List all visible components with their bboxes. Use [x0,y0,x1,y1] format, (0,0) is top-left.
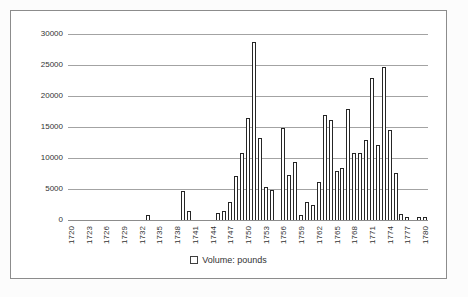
bar [216,213,220,220]
bar [370,78,374,220]
gridline [68,96,428,97]
bar [388,130,392,220]
bar [222,211,226,220]
y-tick-label: 15000 [13,122,63,132]
bar [264,187,268,220]
bar [293,162,297,220]
bar [240,153,244,220]
y-tick-label: 30000 [13,29,63,39]
y-tick-label: 0 [13,215,63,225]
legend-series-marker-icon [190,256,198,264]
legend: Volume: pounds [11,255,446,265]
bar [228,202,232,220]
bar [252,42,256,220]
legend-label: Volume: pounds [202,255,267,265]
gridline [68,65,428,66]
bar [281,128,285,220]
bar [382,67,386,220]
bar [287,175,291,220]
bar [376,145,380,220]
bar [346,109,350,220]
bar [394,173,398,220]
y-tick-label: 5000 [13,184,63,194]
bar [258,138,262,220]
x-axis-line [68,220,428,221]
bar [323,115,327,220]
bar [329,120,333,220]
gridline [68,34,428,35]
y-tick-label: 25000 [13,60,63,70]
bar [181,191,185,220]
bar [317,182,321,220]
bar [358,153,362,220]
bar [305,202,309,220]
bar [364,140,368,220]
bar [187,211,191,220]
bar [270,190,274,220]
bar [246,118,250,220]
bar [234,176,238,220]
y-tick-label: 20000 [13,91,63,101]
y-tick-label: 10000 [13,153,63,163]
bar [352,153,356,220]
plot-area [68,34,428,220]
chart-frame: 050001000015000200002500030000 172017231… [10,10,447,279]
bar [335,171,339,220]
x-tick-label: 1780 [414,224,436,246]
bar [311,205,315,220]
bar [340,168,344,220]
